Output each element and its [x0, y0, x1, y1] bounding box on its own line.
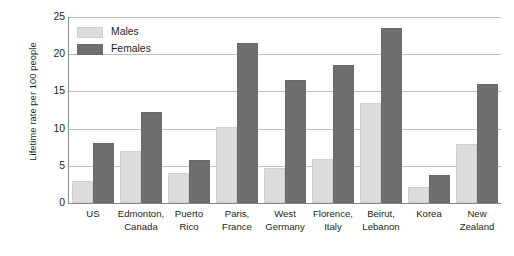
x-tick-label-line1: Edmonton,: [118, 208, 164, 219]
bar-males[interactable]: [264, 168, 285, 203]
x-tick-label-line2: Germany: [261, 221, 309, 234]
y-axis-tick-labels: 0510152025: [41, 17, 65, 203]
bar-females[interactable]: [93, 143, 114, 203]
x-tick-label: US: [69, 208, 117, 221]
bar-females[interactable]: [333, 65, 354, 203]
bar-females[interactable]: [381, 28, 402, 203]
y-tick-label-5: 5: [41, 161, 65, 171]
bar-females[interactable]: [189, 160, 210, 203]
bar-group: [312, 17, 354, 203]
bar-males[interactable]: [408, 187, 429, 203]
bar-females[interactable]: [285, 80, 306, 204]
x-tick-label-line1: Puerto: [175, 208, 203, 219]
x-axis-tick-labels: USEdmonton,CanadaPuertoRicoParis,FranceW…: [69, 208, 501, 252]
x-tick-label-line1: Paris,: [225, 208, 250, 219]
x-tick-label: Edmonton,Canada: [117, 208, 165, 233]
gridline-0: [69, 203, 501, 204]
bar-group: [360, 17, 402, 203]
bar-group: [408, 17, 450, 203]
x-tick-label: Florence,Italy: [309, 208, 357, 233]
x-tick-label-line2: France: [213, 221, 261, 234]
x-tick-label-line2: Canada: [117, 221, 165, 234]
x-tick-label-line1: Korea: [416, 208, 442, 219]
x-tick-label: PuertoRico: [165, 208, 213, 233]
x-tick-label-line1: Beirut,: [367, 208, 395, 219]
x-tick-label: NewZealand: [453, 208, 501, 233]
x-tick-label-line1: Florence,: [313, 208, 353, 219]
x-tick-label: WestGermany: [261, 208, 309, 233]
x-tick-label-line2: Zealand: [453, 221, 501, 234]
legend-item-females[interactable]: Females: [77, 42, 197, 57]
legend-swatch-icon: [77, 44, 103, 55]
bar-males[interactable]: [360, 103, 381, 203]
bar-males[interactable]: [312, 159, 333, 203]
x-tick-label-line1: New: [467, 208, 486, 219]
bar-females[interactable]: [237, 43, 258, 203]
bar-males[interactable]: [456, 144, 477, 203]
x-tick-label-line1: West: [274, 208, 296, 219]
y-tick-label-0: 0: [41, 198, 65, 208]
bar-females[interactable]: [141, 112, 162, 204]
x-tick-label-line2: Lebanon: [357, 221, 405, 234]
bar-group: [456, 17, 498, 203]
bar-males[interactable]: [72, 181, 93, 203]
legend-label: Females: [111, 44, 151, 54]
bar-chart: Lifetime rate per 100 people 0510152025 …: [0, 0, 514, 256]
x-tick-label-line2: Italy: [309, 221, 357, 234]
legend-label: Males: [111, 27, 139, 37]
chart-legend: MalesFemales: [77, 25, 197, 59]
y-tick-label-10: 10: [41, 124, 65, 134]
bar-males[interactable]: [120, 151, 141, 203]
bar-group: [216, 17, 258, 203]
bar-females[interactable]: [429, 175, 450, 203]
legend-item-males[interactable]: Males: [77, 25, 197, 40]
bar-females[interactable]: [477, 84, 498, 203]
x-tick-label-line1: US: [86, 208, 99, 219]
bar-males[interactable]: [168, 173, 189, 203]
y-tick-label-15: 15: [41, 86, 65, 96]
bar-group: [264, 17, 306, 203]
legend-swatch-icon: [77, 27, 103, 38]
x-tick-label: Korea: [405, 208, 453, 221]
y-tick-label-25: 25: [41, 12, 65, 22]
y-tick-label-20: 20: [41, 49, 65, 59]
x-tick-label: Beirut,Lebanon: [357, 208, 405, 233]
x-tick-label-line2: Rico: [165, 221, 213, 234]
bar-males[interactable]: [216, 127, 237, 203]
x-tick-label: Paris,France: [213, 208, 261, 233]
